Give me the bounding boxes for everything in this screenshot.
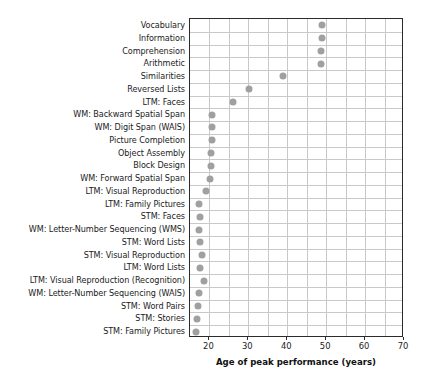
horizontal-gridline (190, 274, 402, 275)
x-tick-mark (208, 337, 209, 340)
data-point (246, 86, 253, 93)
data-point (317, 47, 324, 54)
data-point (199, 252, 206, 259)
data-point (194, 303, 201, 310)
x-tick-mark (325, 337, 326, 340)
horizontal-gridline (190, 198, 402, 199)
vertical-gridline (307, 19, 308, 336)
horizontal-gridline (190, 83, 402, 84)
x-tick-label: 50 (308, 341, 342, 351)
horizontal-gridline (190, 210, 402, 211)
category-label: Object Assembly (0, 147, 185, 160)
x-axis-title: Age of peak performance (years) (189, 357, 403, 367)
x-tick-label: 60 (347, 341, 381, 351)
category-label: Vocabulary (0, 19, 185, 32)
horizontal-gridline (190, 121, 402, 122)
horizontal-gridline (190, 70, 402, 71)
horizontal-gridline (190, 172, 402, 173)
scatter-chart: VocabularyInformationComprehensionArithm… (0, 0, 425, 382)
category-label: STM: Visual Reproduction (0, 249, 185, 262)
data-point (279, 73, 286, 80)
data-point (196, 226, 203, 233)
vertical-gridline (385, 19, 386, 336)
horizontal-gridline (190, 134, 402, 135)
category-label: STM: Stories (0, 312, 185, 325)
category-label: LTM: Faces (0, 96, 185, 109)
category-label: STM: Word Pairs (0, 300, 185, 313)
x-axis-ticks: 203040506070 (189, 337, 403, 353)
category-label: Similarities (0, 70, 185, 83)
data-point (208, 162, 215, 169)
x-tick-label: 70 (386, 341, 420, 351)
data-point (317, 60, 324, 67)
category-label: Comprehension (0, 45, 185, 58)
category-axis-labels: VocabularyInformationComprehensionArithm… (0, 19, 185, 338)
data-point (195, 290, 202, 297)
plot-area (189, 18, 403, 337)
horizontal-gridline (190, 147, 402, 148)
horizontal-gridline (190, 261, 402, 262)
data-point (202, 188, 209, 195)
category-label: Reversed Lists (0, 83, 185, 96)
category-label: LTM: Visual Reproduction (Recognition) (0, 274, 185, 287)
category-label: Information (0, 32, 185, 45)
horizontal-gridline (190, 300, 402, 301)
vertical-gridline (287, 19, 288, 336)
vertical-gridline (268, 19, 269, 336)
data-point (318, 35, 325, 42)
category-label: LTM: Family Pictures (0, 198, 185, 211)
x-tick-mark (247, 337, 248, 340)
category-label: LTM: Word Lists (0, 261, 185, 274)
plot-inner (190, 19, 402, 336)
horizontal-gridline (190, 236, 402, 237)
category-label: LTM: Visual Reproduction (0, 185, 185, 198)
category-label: WM: Digit Span (WAIS) (0, 121, 185, 134)
x-tick-mark (364, 337, 365, 340)
data-point (197, 264, 204, 271)
vertical-gridline (229, 19, 230, 336)
horizontal-gridline (190, 32, 402, 33)
horizontal-gridline (190, 159, 402, 160)
horizontal-gridline (190, 287, 402, 288)
x-tick-label: 20 (191, 341, 225, 351)
vertical-gridline (326, 19, 327, 336)
horizontal-gridline (190, 312, 402, 313)
vertical-gridline (346, 19, 347, 336)
data-point (194, 315, 201, 322)
x-tick-label: 30 (230, 341, 264, 351)
data-point (206, 175, 213, 182)
horizontal-gridline (190, 185, 402, 186)
category-label: STM: Word Lists (0, 236, 185, 249)
horizontal-gridline (190, 325, 402, 326)
category-label: Picture Completion (0, 134, 185, 147)
category-label: STM: Family Pictures (0, 325, 185, 338)
x-tick-label: 40 (269, 341, 303, 351)
horizontal-gridline (190, 45, 402, 46)
category-label: WM: Forward Spatial Span (0, 172, 185, 185)
x-tick-mark (286, 337, 287, 340)
data-point (208, 137, 215, 144)
vertical-gridline (248, 19, 249, 336)
horizontal-gridline (190, 108, 402, 109)
category-label: WM: Letter-Number Sequencing (WAIS) (0, 287, 185, 300)
data-point (208, 149, 215, 156)
x-tick-mark (403, 337, 404, 340)
data-point (319, 22, 326, 29)
horizontal-gridline (190, 96, 402, 97)
horizontal-gridline (190, 223, 402, 224)
data-point (197, 213, 204, 220)
data-point (209, 111, 216, 118)
data-point (208, 124, 215, 131)
horizontal-gridline (190, 249, 402, 250)
horizontal-gridline (190, 57, 402, 58)
category-label: WM: Backward Spatial Span (0, 108, 185, 121)
vertical-gridline (365, 19, 366, 336)
category-label: STM: Faces (0, 210, 185, 223)
category-label: WM: Letter-Number Sequencing (WMS) (0, 223, 185, 236)
data-point (230, 98, 237, 105)
data-point (195, 201, 202, 208)
category-label: Arithmetic (0, 57, 185, 70)
category-label: Block Design (0, 159, 185, 172)
data-point (201, 277, 208, 284)
data-point (197, 239, 204, 246)
